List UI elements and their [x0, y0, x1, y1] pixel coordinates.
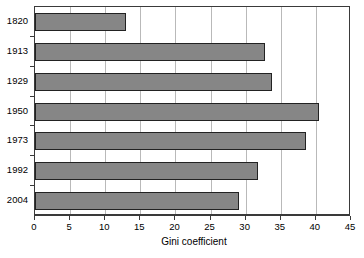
x-axis-tick	[69, 216, 70, 220]
x-axis-tick-label: 40	[300, 221, 330, 232]
x-axis-tick-label: 5	[54, 221, 84, 232]
bar-row	[35, 162, 351, 180]
y-axis-label-2004: 2004	[0, 195, 28, 205]
y-axis-tick	[30, 96, 34, 97]
y-axis-label-1973: 1973	[0, 135, 28, 145]
x-axis-tick-label: 45	[335, 221, 364, 232]
x-axis-tick	[245, 216, 246, 220]
x-axis-line	[34, 215, 350, 216]
bar-row	[35, 13, 351, 31]
bar-row	[35, 192, 351, 210]
y-axis-category-labels: 1820191319291950197319922004	[0, 6, 31, 215]
x-axis-tick-label: 15	[124, 221, 154, 232]
bar-row	[35, 73, 351, 91]
y-axis-tick	[30, 125, 34, 126]
x-axis-tick-label: 25	[195, 221, 225, 232]
bar-1913	[35, 43, 265, 61]
y-axis-label-1929: 1929	[0, 76, 28, 86]
x-axis-tick-label: 10	[89, 221, 119, 232]
x-axis-tick	[210, 216, 211, 220]
bar-1929	[35, 73, 272, 91]
y-axis-tick	[30, 155, 34, 156]
gini-coefficient-bar-chart: 1820191319291950197319922004 05101520253…	[0, 0, 364, 258]
y-axis-label-1820: 1820	[0, 16, 28, 26]
y-axis-label-1913: 1913	[0, 46, 28, 56]
bar-row	[35, 43, 351, 61]
y-axis-label-1992: 1992	[0, 165, 28, 175]
y-axis-tick	[30, 66, 34, 67]
bar-2004	[35, 192, 239, 210]
bar-row	[35, 103, 351, 121]
x-axis-tick	[174, 216, 175, 220]
x-axis-tick-label: 30	[230, 221, 260, 232]
bar-row	[35, 132, 351, 150]
x-axis-tick-label: 20	[159, 221, 189, 232]
x-axis-title: Gini coefficient	[0, 236, 364, 248]
plot-area	[34, 6, 350, 215]
y-axis-tick	[30, 185, 34, 186]
bar-1820	[35, 13, 126, 31]
x-axis-tick-label: 0	[19, 221, 49, 232]
x-axis-tick	[280, 216, 281, 220]
x-axis-tick	[104, 216, 105, 220]
bar-1992	[35, 162, 258, 180]
x-axis-tick	[139, 216, 140, 220]
x-axis-tick	[315, 216, 316, 220]
y-axis-tick	[30, 36, 34, 37]
x-axis-tick	[350, 216, 351, 220]
y-axis-label-1950: 1950	[0, 106, 28, 116]
bars-layer	[35, 7, 349, 214]
bar-1950	[35, 103, 319, 121]
bar-1973	[35, 132, 306, 150]
x-axis-tick-label: 35	[265, 221, 295, 232]
x-axis-tick	[34, 216, 35, 220]
